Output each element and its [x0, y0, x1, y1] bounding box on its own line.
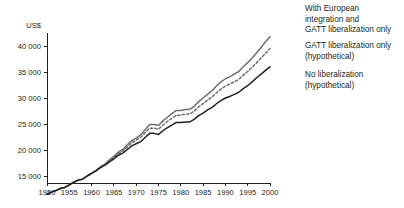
- y-axis-tick-label: 35 000: [18, 68, 41, 77]
- x-axis-tick-label: 1950: [39, 188, 56, 197]
- x-axis-tick-label: 1990: [217, 188, 234, 197]
- y-axis-tick-label: 40 000: [18, 42, 41, 51]
- x-axis-tick-label: 1975: [150, 188, 167, 197]
- y-axis-tick-label: 15 000: [18, 172, 41, 181]
- x-axis-tick-label: 1995: [239, 188, 256, 197]
- y-axis-unit-label: US$: [26, 21, 42, 30]
- y-axis-tick-label: 30 000: [18, 94, 41, 103]
- legend-label-gatt-liberalization-only: GATT liberalization only (hypothetical): [305, 41, 403, 62]
- y-axis: 15 00020 00025 00030 00035 00040 000: [18, 33, 47, 183]
- series-layer: [47, 37, 270, 195]
- legend-label-with-european-integration: With European integration and GATT liber…: [305, 4, 403, 36]
- x-axis-tick-label: 2000: [262, 188, 279, 197]
- x-axis-tick-label: 1980: [172, 188, 189, 197]
- x-axis-tick-label: 1955: [61, 188, 78, 197]
- legend-label-no-liberalization: No liberalization (hypothetical): [305, 70, 403, 91]
- x-axis-tick-label: 1960: [83, 188, 100, 197]
- y-axis-tick-label: 25 000: [18, 120, 41, 129]
- x-axis-tick-label: 1985: [195, 188, 212, 197]
- series-line-2: [47, 67, 270, 194]
- series-line-1: [47, 49, 270, 195]
- y-axis-tick-label: 20 000: [18, 146, 41, 155]
- x-axis: 1950195519601965197019751980198519901995…: [39, 183, 279, 197]
- x-axis-tick-label: 1965: [105, 188, 122, 197]
- x-axis-tick-label: 1970: [128, 188, 145, 197]
- chart-container: 15 00020 00025 00030 00035 00040 000 195…: [0, 0, 404, 208]
- series-line-0: [47, 37, 270, 195]
